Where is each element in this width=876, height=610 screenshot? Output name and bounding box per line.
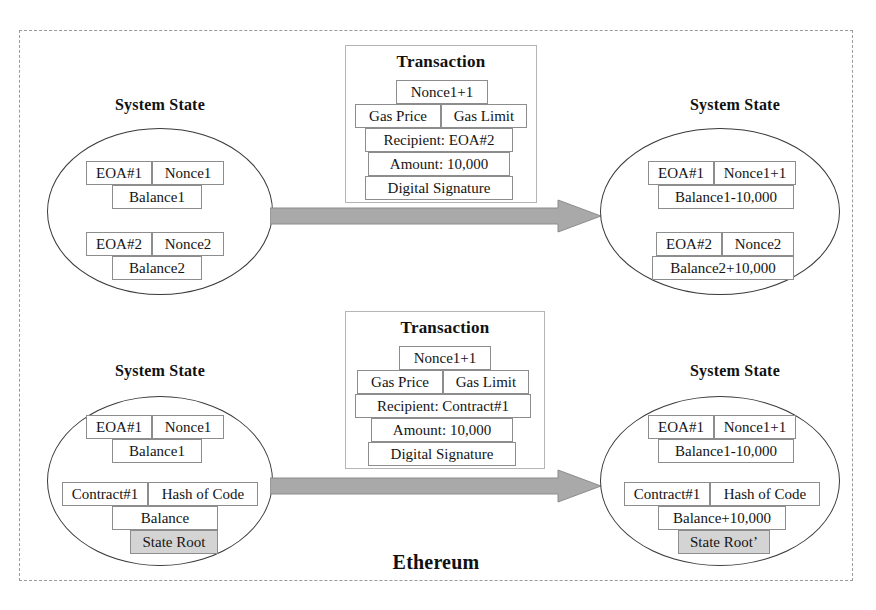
account-address-cell: EOA#2 (86, 232, 152, 256)
transaction-recipient-cell: Recipient: EOA#2 (365, 128, 513, 152)
contract-code-hash-cell: Hash of Code (710, 482, 820, 506)
transaction-gas-limit-cell: Gas Limit (441, 104, 527, 128)
account-address-cell: EOA#1 (86, 161, 152, 185)
account-address-cell: EOA#2 (656, 232, 722, 256)
state-title-after-row2: System State (620, 362, 850, 380)
contract-balance-cell: Balance (112, 506, 218, 530)
transaction-recipient-cell: Recipient: Contract#1 (355, 394, 531, 418)
transaction-title: Transaction (346, 318, 544, 338)
contract-code-hash-cell: Hash of Code (148, 482, 258, 506)
account-nonce-cell: Nonce1 (152, 415, 224, 439)
transaction-title: Transaction (346, 52, 536, 72)
contract-address-cell: Contract#1 (62, 482, 148, 506)
account-address-cell: EOA#1 (648, 415, 714, 439)
contract-state-root-cell: State Root (130, 530, 218, 554)
state-transition-arrow-row1 (270, 198, 602, 234)
account-nonce-cell: Nonce2 (152, 232, 224, 256)
diagram-canvas: Ethereum System State EOA#1 Nonce1 Balan… (0, 0, 876, 610)
account-nonce-cell: Nonce2 (722, 232, 794, 256)
transaction-gas-price-cell: Gas Price (355, 104, 441, 128)
transaction-amount-cell: Amount: 10,000 (371, 418, 513, 442)
account-balance-cell: Balance1 (112, 439, 202, 463)
state-transition-arrow-row2 (270, 468, 602, 504)
contract-state-root-cell: State Root’ (678, 530, 770, 554)
account-balance-cell: Balance1-10,000 (658, 185, 794, 209)
state-title-before-row1: System State (45, 96, 275, 114)
transaction-signature-cell: Digital Signature (368, 442, 516, 466)
transaction-nonce-cell: Nonce1+1 (399, 346, 491, 370)
transaction-nonce-cell: Nonce1+1 (396, 80, 488, 104)
transaction-gas-price-cell: Gas Price (357, 370, 443, 394)
account-balance-cell: Balance2 (112, 256, 202, 280)
account-balance-cell: Balance2+10,000 (652, 256, 794, 280)
transaction-amount-cell: Amount: 10,000 (368, 152, 510, 176)
contract-address-cell: Contract#1 (624, 482, 710, 506)
state-title-after-row1: System State (620, 96, 850, 114)
transaction-signature-cell: Digital Signature (365, 176, 513, 200)
transaction-gas-limit-cell: Gas Limit (443, 370, 529, 394)
state-title-before-row2: System State (45, 362, 275, 380)
account-nonce-cell: Nonce1+1 (714, 161, 796, 185)
contract-balance-cell: Balance+10,000 (658, 506, 786, 530)
account-nonce-cell: Nonce1+1 (714, 415, 796, 439)
account-nonce-cell: Nonce1 (152, 161, 224, 185)
account-address-cell: EOA#1 (86, 415, 152, 439)
account-balance-cell: Balance1 (112, 185, 202, 209)
account-address-cell: EOA#1 (648, 161, 714, 185)
account-balance-cell: Balance1-10,000 (658, 439, 794, 463)
